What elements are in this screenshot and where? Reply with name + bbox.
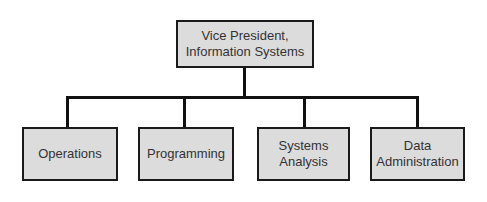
node-label-line1: Data <box>376 138 458 154</box>
connector-operations <box>66 96 69 128</box>
node-operations: Operations <box>22 127 118 181</box>
node-label-line2: Analysis <box>279 154 329 170</box>
node-label-line1: Operations <box>38 146 102 162</box>
connector-systems-analysis <box>303 96 306 128</box>
root-connector <box>243 66 246 98</box>
node-label-line1: Programming <box>147 146 225 162</box>
node-programming: Programming <box>138 127 234 181</box>
node-label-line1: Systems <box>279 138 329 154</box>
node-label-line2: Information Systems <box>186 44 305 60</box>
node-data-administration: Data Administration <box>370 127 465 181</box>
node-label-line2: Administration <box>376 154 458 170</box>
connector-data-administration <box>416 96 419 128</box>
node-systems-analysis: Systems Analysis <box>257 127 350 181</box>
horizontal-connector <box>66 96 419 99</box>
connector-programming <box>183 96 186 128</box>
node-vice-president: Vice President, Information Systems <box>176 20 314 68</box>
node-label-line1: Vice President, <box>186 28 305 44</box>
